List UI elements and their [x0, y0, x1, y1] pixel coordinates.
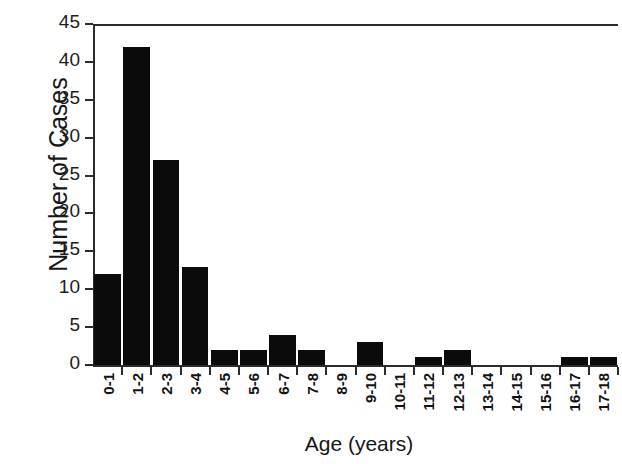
x-axis-tick-label: 8-9: [333, 373, 348, 395]
bar: [357, 342, 384, 365]
x-axis-tick-label-slot: 17-18: [589, 373, 618, 429]
x-axis-tick-label: 13-14: [479, 373, 494, 411]
bar: [444, 350, 471, 365]
x-axis-tick-label-slot: 12-13: [443, 373, 472, 429]
y-axis-tick-label: 40: [59, 50, 80, 69]
y-axis-tick-label: 15: [59, 239, 80, 258]
x-axis-tick-label-slot: 4-5: [210, 373, 239, 429]
x-axis-tick-label-slot: 7-8: [297, 373, 326, 429]
y-axis-tick-label: 45: [59, 12, 80, 31]
y-axis-tick-label: 35: [59, 88, 80, 107]
x-axis-tick-labels: 0-11-22-33-44-55-66-77-88-99-1010-1111-1…: [93, 373, 618, 429]
x-axis-tick-label: 7-8: [304, 373, 319, 395]
bar: [590, 357, 617, 365]
y-axis-tick-label: 0: [69, 353, 80, 372]
x-axis-tick-label-slot: 10-11: [385, 373, 414, 429]
plot-frame-top-border: [93, 24, 618, 26]
x-axis-tick-label-slot: 5-6: [239, 373, 268, 429]
y-axis-tick: 5: [85, 326, 93, 328]
bar: [182, 267, 209, 366]
bar: [269, 335, 296, 365]
x-axis-tick-label: 2-3: [158, 373, 173, 395]
x-axis-tick-label: 10-11: [392, 373, 407, 411]
x-axis-tick-label: 17-18: [596, 373, 611, 411]
x-axis-tick-label-slot: 8-9: [326, 373, 355, 429]
y-axis-tick: 0: [85, 364, 93, 366]
x-axis-tick-label-slot: 6-7: [268, 373, 297, 429]
bar: [211, 350, 238, 365]
x-axis-tick-label: 3-4: [188, 373, 203, 395]
x-axis-tick-label: 16-17: [567, 373, 582, 411]
x-axis-tick-label-slot: 9-10: [356, 373, 385, 429]
x-axis-tick-label-slot: 13-14: [472, 373, 501, 429]
x-axis-title-text: Age (years): [305, 432, 414, 455]
bar: [123, 47, 150, 365]
bar: [298, 350, 325, 365]
x-axis-title: Age (years): [0, 432, 622, 456]
bar: [94, 274, 121, 365]
bar: [153, 160, 180, 365]
y-axis-tick: 15: [85, 250, 93, 252]
x-axis-tick-label: 12-13: [450, 373, 465, 411]
bar-chart-figure: Number of Cases 051015202530354045 0-11-…: [0, 0, 622, 464]
y-axis-tick: 35: [85, 99, 93, 101]
x-axis-tick-label: 14-15: [508, 373, 523, 411]
y-axis-tick-label: 5: [69, 315, 80, 334]
x-axis-tick-label: 11-12: [421, 373, 436, 411]
bar: [415, 357, 442, 365]
x-axis-tick-label-slot: 15-16: [531, 373, 560, 429]
x-axis-tick-label: 4-5: [217, 373, 232, 395]
x-axis-tick-label-slot: 2-3: [151, 373, 180, 429]
x-axis-tick-label: 1-2: [129, 373, 144, 395]
x-axis-tick-label-slot: 11-12: [414, 373, 443, 429]
y-axis-tick: 20: [85, 212, 93, 214]
plot-area: 051015202530354045: [93, 24, 618, 367]
y-axis-tick: 25: [85, 175, 93, 177]
y-axis-tick-label: 20: [59, 201, 80, 220]
y-axis-tick: 40: [85, 61, 93, 63]
x-axis-tick-label: 15-16: [538, 373, 553, 411]
y-axis-tick-label: 10: [59, 277, 80, 296]
y-axis-tick: 30: [85, 137, 93, 139]
x-axis-tick-label-slot: 3-4: [181, 373, 210, 429]
y-axis-tick: 10: [85, 288, 93, 290]
x-axis-tick-label: 6-7: [275, 373, 290, 395]
x-axis-tick-label: 0-1: [100, 373, 115, 395]
x-axis-tick-label: 5-6: [246, 373, 261, 395]
bar: [240, 350, 267, 365]
y-axis-tick: 45: [85, 23, 93, 25]
x-axis-tick-label-slot: 0-1: [93, 373, 122, 429]
x-axis-tick-label: 9-10: [363, 373, 378, 403]
x-axis-tick-label-slot: 1-2: [122, 373, 151, 429]
bar: [561, 357, 588, 365]
y-axis-tick-label: 30: [59, 126, 80, 145]
y-axis-tick-label: 25: [59, 164, 80, 183]
x-axis-tick-label-slot: 14-15: [501, 373, 530, 429]
x-axis-tick-label-slot: 16-17: [560, 373, 589, 429]
